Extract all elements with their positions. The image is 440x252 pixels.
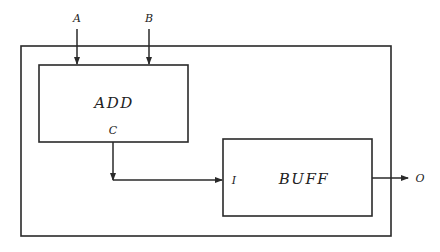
outer-module-box: [21, 46, 391, 236]
buff-block: BUFF I: [223, 139, 372, 216]
input-a-label: A: [72, 12, 81, 25]
output-o-label: O: [415, 172, 424, 185]
add-block-label: ADD: [92, 94, 133, 112]
buff-input-port-label: I: [231, 174, 237, 187]
add-output-port-label: C: [109, 124, 118, 137]
buff-block-label: BUFF: [278, 170, 329, 188]
add-block: ADD C: [39, 65, 188, 142]
block-diagram: ADD C BUFF I A B O: [0, 0, 440, 252]
input-b-label: B: [144, 12, 153, 25]
